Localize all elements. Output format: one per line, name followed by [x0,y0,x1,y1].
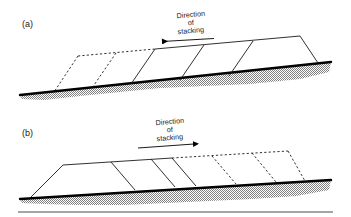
panel-a-left-toe-slope-dashed [54,56,78,92]
figure-canvas: Direction of stacking (a) [0,0,351,217]
stacking-direction-figure: Direction of stacking (a) [0,0,351,217]
panel-b-lift-face-solid-2 [151,159,175,187]
panel-a: Direction of stacking (a) [20,9,331,100]
panel-b-lift-face-solid-1 [111,162,135,190]
panel-a-crest-dashed [78,49,155,56]
panel-a-lift-face-solid-1 [131,49,155,84]
panel-a-direction-arrow [162,39,214,42]
panel-b-label: (b) [22,128,33,138]
panel-a-annotation: Direction of stacking [162,9,214,42]
panel-b-right-toe-slope-dashed [288,151,305,181]
panel-a-right-toe-slope [300,36,318,63]
panel-b-lift-face-dashed-2 [252,153,276,182]
panel-b-annotation: Direction of stacking [138,116,194,148]
panel-a-crest-solid [155,36,300,49]
panel-b-lift-face-solid-3 [172,158,196,186]
panel-a-lift-face-dashed-1 [92,53,116,88]
panel-a-label: (a) [22,19,33,29]
panel-b-direction-arrow [138,144,194,148]
panel-b-caption-line-3: stacking [156,132,183,143]
panel-b-left-toe-slope [31,165,63,197]
panel-a-caption-line-3: stacking [177,25,204,36]
panel-b-lift-face-dashed-1 [212,156,236,184]
panel-b-crest-dashed [172,151,288,158]
panel-b: Direction of stacking (b) [20,116,331,205]
